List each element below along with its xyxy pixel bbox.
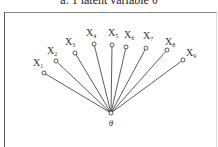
edge-theta-x8 (111, 50, 167, 113)
observed-node-x9 (181, 58, 185, 62)
edge-theta-x9 (111, 60, 183, 113)
edge-theta-x1 (44, 73, 111, 113)
edge-theta-x7 (111, 48, 146, 113)
observed-node-x6 (124, 45, 128, 49)
observed-node-x8 (165, 48, 169, 52)
observed-node-x7 (144, 46, 148, 50)
factor-model-diagram: X1X2X3X4X5X6X7X8X9θ (0, 0, 218, 147)
edge-theta-x6 (111, 47, 126, 113)
observed-label-x9: X9 (186, 47, 196, 59)
observed-node-x2 (54, 59, 58, 63)
observed-node-x1 (42, 71, 46, 75)
latent-node-theta (109, 111, 113, 115)
observed-node-x3 (73, 51, 77, 55)
observed-label-x1: X1 (33, 57, 43, 69)
observed-label-x2: X2 (47, 45, 57, 57)
edge-theta-x5 (111, 45, 112, 113)
observed-label-x8: X8 (165, 36, 175, 48)
observed-label-x4: X4 (86, 27, 96, 39)
observed-label-x7: X7 (143, 30, 153, 42)
observed-label-x5: X5 (108, 27, 118, 39)
observed-label-x6: X6 (124, 29, 134, 41)
observed-node-x5 (110, 43, 114, 47)
edge-theta-x2 (56, 61, 111, 113)
edge-theta-x3 (75, 53, 111, 113)
observed-node-x4 (92, 42, 96, 46)
latent-label-theta: θ (109, 118, 114, 128)
observed-label-x3: X3 (65, 36, 75, 48)
edge-theta-x4 (94, 44, 111, 113)
